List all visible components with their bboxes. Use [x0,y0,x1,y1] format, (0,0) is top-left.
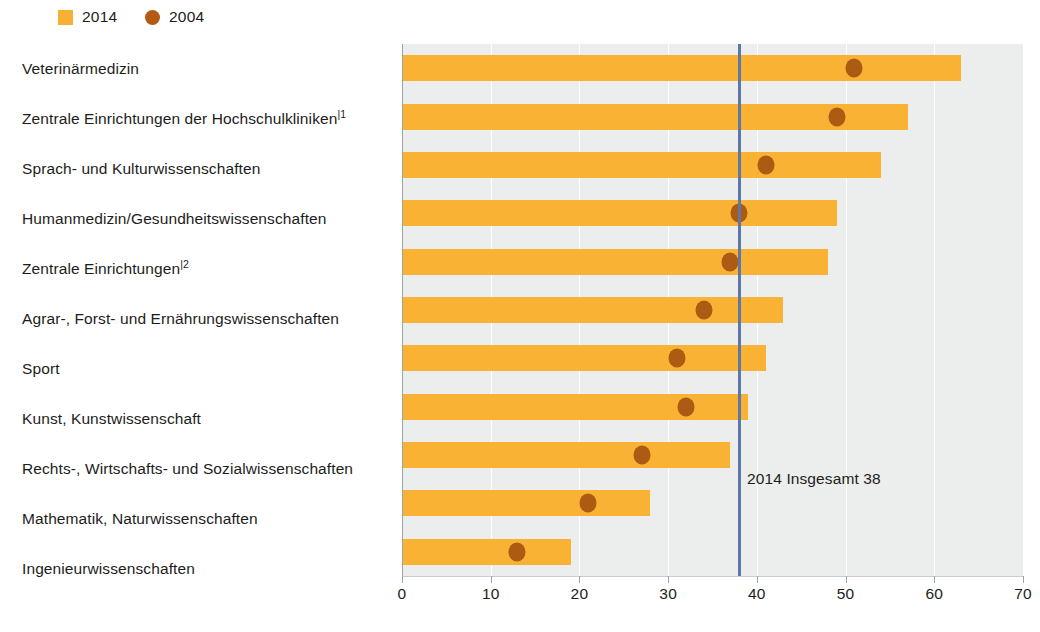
x-axis-tick-label: 50 [837,585,855,603]
chart-row [402,383,1023,431]
x-axis-tick-label: 40 [748,585,766,603]
chart-row [402,237,1023,285]
chart-row [402,334,1023,382]
legend-label-2004: 2004 [169,8,204,26]
bar-2014 [402,345,766,371]
category-label: Humanmedizin/Gesundheitswissenschaften [22,208,326,228]
dot-2004 [757,155,774,174]
x-axis-tick [668,576,669,583]
chart-row [402,528,1023,576]
category-label: Zentrale Einrichtungen der Hochschulklin… [22,108,346,128]
chart-row [402,479,1023,527]
category-label: Zentrale Einrichtungen|2 [22,258,189,278]
dot-2004 [695,300,712,319]
x-axis-tick-label: 30 [659,585,677,603]
category-label-text: Kunst, Kunstwissenschaft [22,410,201,427]
dot-2004 [722,252,739,271]
category-label-text: Sprach- und Kulturwissenschaften [22,160,260,177]
category-label-text: Humanmedizin/Gesundheitswissenschaften [22,210,326,227]
legend-item-2014: 2014 [58,0,117,34]
x-axis-tick [579,576,580,583]
chart-row [402,44,1023,92]
plot-area [402,44,1023,576]
gridline [1023,44,1024,576]
category-label-text: Veterinärmedizin [22,60,139,77]
category-label: Agrar-, Forst- und Ernährungswissenschaf… [22,308,339,328]
x-axis-tick [934,576,935,583]
bar-2014 [402,152,881,178]
chart-row [402,189,1023,237]
category-label-text: Agrar-, Forst- und Ernährungswissenschaf… [22,310,339,327]
dot-2004 [633,446,650,465]
chart-root: 2014 2004 Veterinärmedizin Zentrale Einr… [0,0,1040,632]
dot-2004 [509,542,526,561]
category-axis-labels: Veterinärmedizin Zentrale Einrichtungen … [0,44,396,576]
dot-2004 [580,494,597,513]
category-label-text: Zentrale Einrichtungen der Hochschulklin… [22,110,337,127]
bar-2014 [402,490,650,516]
category-label-text: Sport [22,360,60,377]
category-label: Sport [22,358,60,378]
circle-dot-icon [145,10,160,25]
x-axis-tick-label: 60 [925,585,943,603]
category-label-text: Rechts-, Wirtschafts- und Sozialwissensc… [22,460,353,477]
category-label-text: Ingenieurwissenschaften [22,560,195,577]
bar-2014 [402,200,837,226]
bar-2014 [402,297,783,323]
square-swatch-icon [58,10,73,25]
chart-legend: 2014 2004 [0,0,1040,34]
category-label: Rechts-, Wirtschafts- und Sozialwissensc… [22,458,353,478]
category-label: Veterinärmedizin [22,58,139,78]
legend-item-2004: 2004 [145,0,204,34]
bar-2014 [402,249,828,275]
y-axis-line [402,44,403,576]
chart-row [402,286,1023,334]
dot-2004 [669,349,686,368]
dot-2004 [846,59,863,78]
dot-2004 [828,107,845,126]
x-axis-tick-label: 70 [1014,585,1032,603]
reference-line [738,44,741,576]
x-axis-tick [1023,576,1024,583]
footnote-marker: |1 [337,108,346,120]
footnote-marker: |2 [180,258,189,270]
category-label: Mathematik, Naturwissenschaften [22,508,258,528]
x-axis-tick [757,576,758,583]
category-label: Ingenieurwissenschaften [22,558,195,578]
x-axis-tick [491,576,492,583]
category-label: Sprach- und Kulturwissenschaften [22,158,260,178]
x-axis-tick [846,576,847,583]
x-axis-tick-label: 10 [482,585,500,603]
dot-2004 [677,397,694,416]
bar-2014 [402,539,571,565]
bar-2014 [402,394,748,420]
bar-2014 [402,55,961,81]
bar-2014 [402,442,730,468]
x-axis-tick [402,576,403,583]
category-label: Kunst, Kunstwissenschaft [22,408,201,428]
category-label-text: Zentrale Einrichtungen [22,260,180,277]
chart-row [402,92,1023,140]
reference-line-annotation: 2014 Insgesamt 38 [747,470,881,488]
x-axis: 010203040506070 [402,576,1023,616]
legend-label-2014: 2014 [82,8,117,26]
chart-row [402,141,1023,189]
x-axis-tick-label: 20 [571,585,589,603]
chart-row [402,431,1023,479]
category-label-text: Mathematik, Naturwissenschaften [22,510,258,527]
x-axis-tick-label: 0 [398,585,407,603]
